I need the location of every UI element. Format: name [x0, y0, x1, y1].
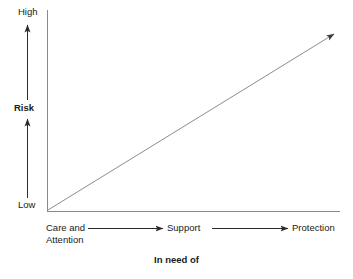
y-axis-title: Risk: [14, 102, 34, 114]
x-axis-category-line2: Attention: [46, 234, 85, 246]
y-axis-low-label: Low: [18, 199, 35, 211]
x-axis-category-support: Support: [167, 222, 200, 234]
risk-vs-need-chart: High Risk Low Care and Attention Support…: [0, 0, 353, 279]
trend-arrow-up-right-icon: [48, 34, 334, 210]
x-axis-category-protection: Protection: [292, 222, 335, 234]
x-axis-category-care-and-attention: Care and Attention: [46, 222, 85, 245]
x-axis-title: In need of: [0, 254, 353, 266]
y-axis-high-label: High: [18, 6, 38, 18]
x-axis-category-line1: Care and: [46, 222, 85, 234]
